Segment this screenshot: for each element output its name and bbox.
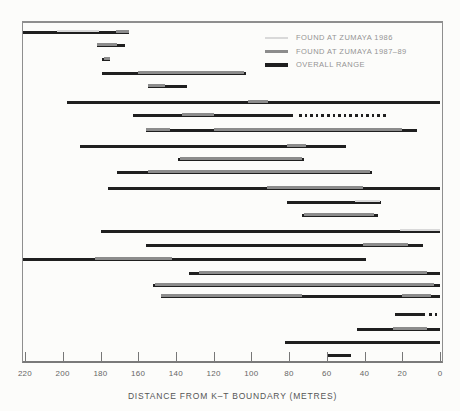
- x-axis-tick-label: 40: [360, 369, 370, 378]
- x-axis-tick-label: 0: [438, 369, 443, 378]
- range-segment-zumaya87: [248, 100, 269, 103]
- range-segment-zumaya87: [304, 213, 374, 216]
- range-segment-overall: [327, 354, 352, 357]
- legend: FOUND AT ZUMAYA 1986 FOUND AT ZUMAYA 198…: [265, 31, 407, 72]
- x-axis-tick: [25, 352, 26, 361]
- range-segment-zumaya87: [146, 128, 171, 131]
- range-segment-zumaya87: [180, 157, 303, 160]
- x-axis-title: DISTANCE FROM K–T BOUNDARY (METRES): [25, 391, 440, 401]
- x-axis-tick-label: 200: [56, 369, 70, 378]
- legend-label-zumaya86: FOUND AT ZUMAYA 1986: [296, 33, 393, 42]
- x-axis-tick-label: 180: [93, 369, 107, 378]
- range-segment-zumaya87: [287, 144, 306, 147]
- legend-item-zumaya86: FOUND AT ZUMAYA 1986: [265, 31, 407, 45]
- x-axis-tick-label: 140: [169, 369, 183, 378]
- range-segment-zumaya87: [97, 43, 118, 46]
- x-axis-tick-label: 160: [131, 369, 145, 378]
- x-axis-tick-label: 60: [322, 369, 332, 378]
- x-axis-tick: [63, 352, 64, 361]
- legend-label-overall: OVERALL RANGE: [296, 60, 365, 69]
- x-axis-tick: [289, 352, 290, 361]
- legend-label-zumaya87: FOUND AT ZUMAYA 1987–89: [296, 47, 407, 56]
- legend-swatch-zumaya86-icon: [265, 37, 288, 39]
- range-segment-overall: [23, 258, 366, 261]
- x-axis-tick: [251, 352, 252, 361]
- range-segment-overall: [101, 230, 441, 233]
- legend-swatch-overall-icon: [265, 63, 288, 67]
- range-segment-zumaya87: [402, 294, 430, 297]
- x-axis-tick: [138, 352, 139, 361]
- x-axis-tick: [327, 352, 328, 361]
- range-segment-zumaya87: [393, 327, 427, 330]
- range-segment-zumaya87: [116, 30, 129, 33]
- range-segment-zumaya87: [155, 283, 434, 286]
- range-segment-zumaya87: [182, 113, 214, 116]
- x-axis-tick: [214, 352, 215, 361]
- x-axis-tick: [402, 352, 403, 361]
- range-segment-zumaya87: [199, 271, 427, 274]
- range-segment-overall: [395, 313, 425, 316]
- x-axis-tick-label: 20: [398, 369, 408, 378]
- x-axis-tick-label: 120: [206, 369, 220, 378]
- x-axis-tick: [365, 352, 366, 361]
- range-segment-zumaya87: [148, 84, 165, 87]
- range-segment-zumaya87: [138, 71, 244, 74]
- x-axis-tick-label: 100: [244, 369, 258, 378]
- x-axis-tick-label: 220: [18, 369, 32, 378]
- range-segment-overall: [285, 341, 440, 344]
- range-segment-zumaya87: [363, 243, 408, 246]
- range-segment-zumaya86: [400, 229, 440, 232]
- range-segment-zumaya87: [214, 128, 403, 131]
- range-segment-zumaya87: [148, 170, 371, 173]
- range-segment-zumaya87: [104, 57, 110, 60]
- range-segment-zumaya87: [267, 186, 363, 189]
- range-segment-zumaya86: [355, 200, 380, 203]
- legend-item-zumaya87: FOUND AT ZUMAYA 1987–89: [265, 45, 407, 59]
- range-segment-zumaya87: [95, 257, 172, 260]
- range-dotted-extension: [299, 114, 388, 117]
- range-dotted-extension: [429, 313, 440, 316]
- x-axis-tick-label: 80: [284, 369, 294, 378]
- legend-swatch-zumaya87-icon: [265, 50, 288, 53]
- range-segment-zumaya86: [57, 30, 99, 33]
- range-segment-zumaya87: [161, 294, 303, 297]
- x-axis-tick: [440, 352, 441, 361]
- x-axis-tick: [101, 352, 102, 361]
- x-axis-tick: [176, 352, 177, 361]
- legend-item-overall: OVERALL RANGE: [265, 58, 407, 72]
- range-chart-figure: FOUND AT ZUMAYA 1986 FOUND AT ZUMAYA 198…: [0, 0, 460, 411]
